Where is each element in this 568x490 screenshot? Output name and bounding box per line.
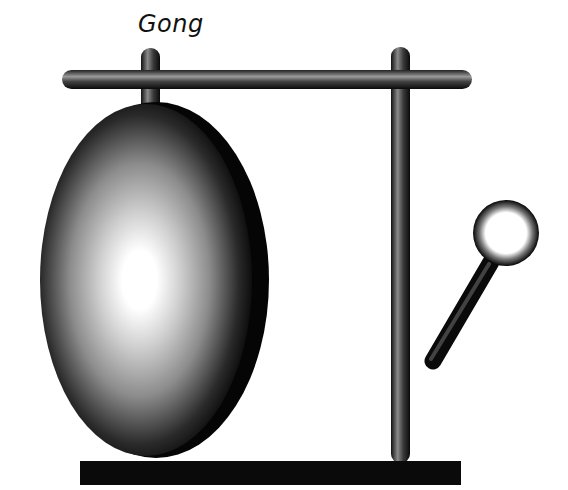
right-post — [391, 47, 410, 463]
mallet-head — [473, 200, 539, 266]
mallet — [431, 200, 539, 361]
base — [80, 461, 461, 485]
stand-crossbar — [62, 70, 472, 89]
gong-illustration — [0, 0, 568, 490]
gong-disc — [40, 104, 252, 456]
